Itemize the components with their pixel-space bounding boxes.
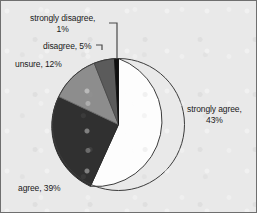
pie-label-unsure-line1: unsure, 12% <box>15 59 62 70</box>
pie-label-agree: agree, 39% <box>18 183 60 194</box>
leader-line-disagree <box>96 45 102 50</box>
pie-label-strongly-disagree-line2: 1% <box>30 24 95 35</box>
pie-chart-figure: strongly disagree, 1% disagree, 5% unsur… <box>0 0 257 213</box>
pie-label-agree-line1: agree, 39% <box>18 183 60 194</box>
pie-label-strongly-disagree-line1: strongly disagree, <box>30 13 95 24</box>
leader-line-strongly-disagree <box>109 23 117 58</box>
pie-label-strongly-agree: strongly agree, 43% <box>187 104 242 125</box>
pie-label-strongly-agree-line2: 43% <box>187 115 242 126</box>
pie-label-unsure: unsure, 12% <box>15 59 62 70</box>
pie-label-disagree: disagree, 5% <box>43 41 91 52</box>
pie-label-strongly-disagree: strongly disagree, 1% <box>30 13 95 34</box>
pie-label-disagree-line1: disagree, 5% <box>43 41 91 52</box>
pie-label-strongly-agree-line1: strongly agree, <box>187 104 242 115</box>
